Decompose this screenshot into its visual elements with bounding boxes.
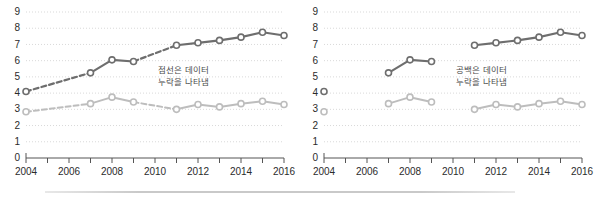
annotation-line-1: 공백은 데이터 [456, 65, 506, 75]
data-point [321, 109, 327, 115]
data-point [174, 42, 180, 48]
annotation-line-2: 누락을 나타냄 [456, 77, 506, 87]
y-tick-label: 7 [14, 39, 20, 50]
data-point [238, 101, 244, 107]
data-point [536, 101, 542, 107]
x-axis-ticks [324, 158, 582, 163]
x-tick-label: 2006 [356, 166, 379, 177]
segment-missing [134, 45, 177, 61]
x-tick-label: 2012 [187, 166, 210, 177]
data-point [321, 88, 327, 94]
x-tick-label: 2016 [571, 166, 594, 177]
y-tick-label: 3 [14, 103, 20, 114]
series-dark [23, 29, 287, 94]
data-point [109, 94, 115, 100]
x-tick-label: 2008 [101, 166, 124, 177]
data-point [195, 40, 201, 46]
y-tick-label: 2 [312, 120, 318, 131]
data-point [386, 70, 392, 76]
data-point [131, 58, 137, 64]
data-point [131, 99, 137, 105]
segment-missing [26, 104, 91, 112]
data-point [23, 109, 29, 115]
y-tick-label: 8 [14, 22, 20, 33]
y-tick-label: 1 [312, 136, 318, 147]
series-light [23, 94, 287, 115]
series-light [321, 94, 585, 115]
x-tick-label: 2014 [230, 166, 253, 177]
data-point [217, 104, 223, 110]
y-tick-label: 6 [312, 55, 318, 66]
data-point [493, 101, 499, 107]
x-axis-ticks [26, 158, 284, 163]
data-point [238, 34, 244, 40]
annotation-line-2: 누락을 나타냄 [158, 77, 208, 87]
data-point [515, 37, 521, 43]
data-point [558, 98, 564, 104]
y-tick-label: 9 [14, 6, 20, 17]
segment-missing [134, 102, 177, 109]
data-point [472, 106, 478, 112]
data-point [281, 101, 287, 107]
annotation-line-1: 점선은 데이터 [158, 65, 208, 75]
y-tick-label: 0 [312, 152, 318, 163]
data-point [407, 57, 413, 63]
x-tick-label: 2010 [144, 166, 167, 177]
y-tick-label: 1 [14, 136, 20, 147]
y-axis-tick-labels: 0123456789 [312, 6, 318, 163]
dual-line-chart-figure: 01234567892004200620082010201220142016점선… [0, 0, 595, 201]
data-point [429, 99, 435, 105]
y-tick-label: 3 [312, 103, 318, 114]
x-tick-label: 2010 [442, 166, 465, 177]
x-tick-label: 2008 [399, 166, 422, 177]
data-point [407, 94, 413, 100]
data-point [429, 58, 435, 64]
x-axis-tick-labels: 2004200620082010201220142016 [313, 166, 594, 177]
data-point [260, 98, 266, 104]
x-axis-tick-labels: 2004200620082010201220142016 [15, 166, 296, 177]
gridlines [26, 12, 284, 142]
data-point [472, 42, 478, 48]
data-point [217, 37, 223, 43]
y-tick-label: 4 [14, 87, 20, 98]
data-point [174, 106, 180, 112]
y-tick-label: 7 [312, 39, 318, 50]
data-point [558, 29, 564, 35]
chart-panel-left: 01234567892004200620082010201220142016점선… [0, 0, 297, 185]
y-tick-label: 6 [14, 55, 20, 66]
y-tick-label: 5 [312, 71, 318, 82]
chart-panel-right: 01234567892004200620082010201220142016공백… [298, 0, 595, 185]
data-point [579, 101, 585, 107]
data-point [579, 33, 585, 39]
y-tick-label: 9 [312, 6, 318, 17]
data-point [281, 33, 287, 39]
data-point [88, 101, 94, 107]
y-axis-tick-labels: 0123456789 [14, 6, 20, 163]
y-tick-label: 5 [14, 71, 20, 82]
line-chart-dashed-bridge: 01234567892004200620082010201220142016점선… [0, 0, 297, 185]
line-chart-gap: 01234567892004200620082010201220142016공백… [298, 0, 595, 185]
x-tick-label: 2004 [313, 166, 336, 177]
x-tick-label: 2014 [528, 166, 551, 177]
x-tick-label: 2004 [15, 166, 38, 177]
data-point [260, 29, 266, 35]
y-tick-label: 2 [14, 120, 20, 131]
y-tick-label: 0 [14, 152, 20, 163]
segment-missing [26, 73, 91, 92]
data-point [536, 34, 542, 40]
y-tick-label: 8 [312, 22, 318, 33]
footer-divider-rule [45, 191, 515, 193]
data-point [109, 57, 115, 63]
x-tick-label: 2006 [58, 166, 81, 177]
data-point [195, 101, 201, 107]
gridlines [324, 12, 582, 142]
data-point [88, 70, 94, 76]
series-dark [321, 29, 585, 94]
y-tick-label: 4 [312, 87, 318, 98]
x-tick-label: 2012 [485, 166, 508, 177]
data-point [23, 88, 29, 94]
data-point [386, 101, 392, 107]
data-point [493, 40, 499, 46]
x-tick-label: 2016 [273, 166, 296, 177]
data-point [515, 104, 521, 110]
